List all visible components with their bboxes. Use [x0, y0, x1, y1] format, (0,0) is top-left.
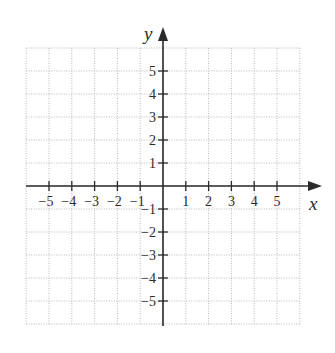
- y-tick-label: 3: [149, 110, 156, 125]
- x-tick-label: 1: [182, 194, 189, 209]
- y-tick-label: −2: [141, 225, 156, 240]
- y-tick-label: 2: [149, 133, 156, 148]
- x-tick-label: −4: [61, 194, 76, 209]
- y-tick-label: −5: [141, 294, 156, 309]
- y-tick-label: 5: [149, 64, 156, 79]
- y-axis-arrow-icon: [158, 27, 168, 41]
- y-tick-label: −3: [141, 248, 156, 263]
- x-tick-label: −5: [39, 194, 54, 209]
- x-tick-label: −2: [107, 194, 122, 209]
- x-axis-label: x: [308, 193, 318, 214]
- y-tick-label: −4: [141, 271, 156, 286]
- y-tick-label: 4: [149, 87, 156, 102]
- y-tick-label: −1: [141, 202, 156, 217]
- y-tick-label: 1: [149, 156, 156, 171]
- axes: x y: [26, 23, 322, 326]
- x-tick-label: −3: [84, 194, 99, 209]
- x-tick-label: 2: [205, 194, 212, 209]
- x-axis-arrow-icon: [308, 181, 322, 191]
- x-tick-label: 4: [251, 194, 258, 209]
- coordinate-plane: x y −5−4−3−2−112345−5−4−3−2−112345: [0, 0, 335, 353]
- x-tick-label: 3: [228, 194, 235, 209]
- y-axis-label: y: [142, 23, 153, 44]
- x-tick-label: 5: [274, 194, 281, 209]
